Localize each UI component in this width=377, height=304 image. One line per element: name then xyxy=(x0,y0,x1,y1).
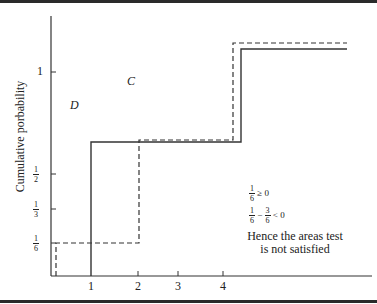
frac-num: 3 xyxy=(265,206,271,216)
frac-num: 1 xyxy=(249,206,255,216)
x-label-3: 3 xyxy=(174,280,182,293)
frac-den: 6 xyxy=(250,216,254,225)
annotation-line4: is not satisfied xyxy=(240,243,350,256)
chart-canvas xyxy=(0,0,377,304)
label-d: D xyxy=(70,99,79,112)
frac-num: 1 xyxy=(33,165,39,175)
frac-den: 6 xyxy=(250,194,254,203)
frac-den: 3 xyxy=(34,210,38,219)
frac-num: 1 xyxy=(33,200,39,210)
x-label-4: 4 xyxy=(219,280,227,293)
y-label-1: 1 xyxy=(36,65,44,78)
x-label-1: 1 xyxy=(87,280,95,293)
frac-den: 6 xyxy=(266,216,270,225)
axis-ylabel: Cumulative porbability xyxy=(14,77,27,197)
y-label-third: 13 xyxy=(33,200,39,219)
x-label-2: 2 xyxy=(134,280,142,293)
frac-den: 2 xyxy=(34,175,38,184)
frac-num: 1 xyxy=(33,234,39,244)
annotation-line1: 16 ≥ 0 xyxy=(249,184,269,203)
operator-text: − xyxy=(257,210,262,220)
y-label-sixth: 16 xyxy=(33,234,39,253)
relation-text: < 0 xyxy=(273,210,285,220)
y-label-half: 12 xyxy=(33,165,39,184)
frac-den: 6 xyxy=(34,244,38,253)
label-c: C xyxy=(127,75,135,88)
annotation-line2: 16 − 36 < 0 xyxy=(249,206,285,225)
relation-text: ≥ 0 xyxy=(257,188,269,198)
frac-num: 1 xyxy=(249,184,255,194)
